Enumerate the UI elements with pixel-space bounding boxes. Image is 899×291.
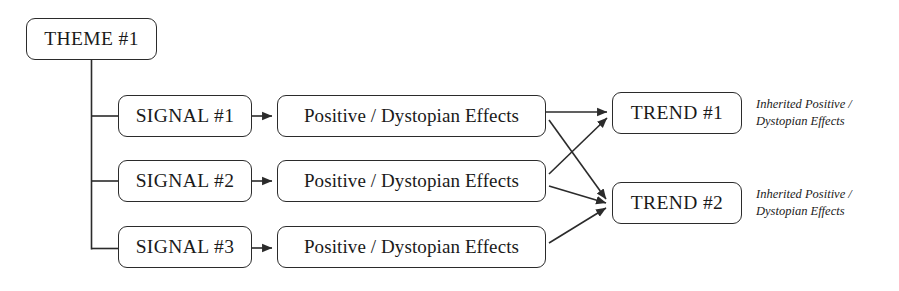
theme-branch-lines xyxy=(92,60,119,250)
node-effect-3-label: Positive / Dystopian Effects xyxy=(304,237,519,257)
signal-to-effect-arrows xyxy=(252,116,272,248)
node-signal-1[interactable]: SIGNAL #1 xyxy=(118,95,252,137)
node-effect-2[interactable]: Positive / Dystopian Effects xyxy=(277,160,546,202)
node-trend-1[interactable]: TREND #1 xyxy=(612,92,742,134)
node-effect-1-label: Positive / Dystopian Effects xyxy=(304,106,519,126)
effect-to-trend-arrows xyxy=(546,112,607,243)
node-effect-1[interactable]: Positive / Dystopian Effects xyxy=(277,95,546,137)
node-theme-1[interactable]: THEME #1 xyxy=(26,18,157,60)
annotation-trend-1-line-2: Dystopian Effects xyxy=(756,113,852,130)
node-theme-1-label: THEME #1 xyxy=(44,29,139,49)
node-signal-1-label: SIGNAL #1 xyxy=(136,106,235,126)
diagram-canvas: THEME #1 SIGNAL #1 SIGNAL #2 SIGNAL #3 P… xyxy=(0,0,899,291)
annotation-trend-2: Inherited Positive / Dystopian Effects xyxy=(756,186,852,221)
annotation-trend-2-line-2: Dystopian Effects xyxy=(756,203,852,220)
node-effect-3[interactable]: Positive / Dystopian Effects xyxy=(277,226,546,268)
annotation-trend-1-line-1: Inherited Positive / xyxy=(756,96,852,113)
node-trend-2-label: TREND #2 xyxy=(631,193,724,213)
node-signal-3-label: SIGNAL #3 xyxy=(136,237,235,257)
node-trend-2[interactable]: TREND #2 xyxy=(612,182,742,224)
node-signal-3[interactable]: SIGNAL #3 xyxy=(118,226,252,268)
node-signal-2[interactable]: SIGNAL #2 xyxy=(118,160,252,202)
node-signal-2-label: SIGNAL #2 xyxy=(136,171,235,191)
annotation-trend-2-line-1: Inherited Positive / xyxy=(756,186,852,203)
annotation-trend-1: Inherited Positive / Dystopian Effects xyxy=(756,96,852,131)
node-effect-2-label: Positive / Dystopian Effects xyxy=(304,171,519,191)
node-trend-1-label: TREND #1 xyxy=(631,103,724,123)
